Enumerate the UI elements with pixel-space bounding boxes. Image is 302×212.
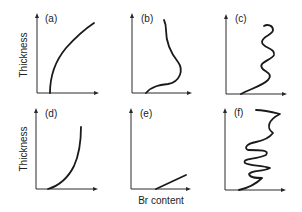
panel-label: (a) [45,13,57,24]
panel-label: (d) [45,108,57,119]
panel-e: (e) Br content [129,108,191,206]
x-axis-arrow-icon [93,187,98,191]
panel-label: (c) [235,13,247,24]
panel-label: (e) [140,108,152,119]
panel-a: (a) [35,13,99,95]
y-axis-arrow-icon [35,13,39,18]
curve [48,127,81,189]
y-axis-label-top: Thickness [18,32,29,77]
figure-canvas: Thickness Thickness (a) (b) (c) (d) [0,0,302,212]
y-axis-arrow-icon [130,13,134,18]
curve [146,20,181,93]
panel-f: (f) [223,107,286,192]
x-axis-arrow-icon [187,91,192,95]
curve [241,25,274,94]
x-axis-arrow-icon [281,188,286,192]
x-axis-arrow-icon [186,187,191,191]
curve [239,110,280,190]
x-axis-arrow-icon [282,92,287,96]
y-axis-arrow-icon [224,14,228,19]
curve [50,23,94,93]
y-axis-label-bottom: Thickness [18,126,29,171]
y-axis-arrow-icon [34,108,38,113]
curve [156,175,186,189]
panel-b: (b) [130,13,192,95]
panel-d: (d) [34,108,98,191]
panel-label: (f) [234,107,243,118]
x-axis-label: Br content [138,195,184,206]
y-axis-arrow-icon [129,108,133,113]
x-axis-arrow-icon [94,91,99,95]
y-axis-arrow-icon [223,108,227,113]
panel-c: (c) [224,13,287,96]
panel-label: (b) [141,13,153,24]
